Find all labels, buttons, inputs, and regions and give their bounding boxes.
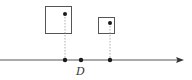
projection-point-small <box>108 58 112 62</box>
diagram-canvas <box>0 0 192 80</box>
point-d <box>79 58 83 62</box>
small-box-dot <box>108 21 112 25</box>
large-box <box>46 7 72 34</box>
label-d: D <box>76 66 85 77</box>
small-box <box>99 18 115 34</box>
large-box-dot <box>63 12 67 16</box>
projection-point-large <box>63 58 67 62</box>
